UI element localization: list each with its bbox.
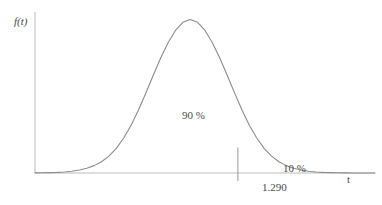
critical-value-label: 1.290	[262, 182, 287, 193]
distribution-figure: f(t) t 90 % 10 % 1.290	[0, 0, 382, 205]
x-axis-label: t	[347, 174, 350, 185]
y-axis-label: f(t)	[14, 16, 27, 27]
density-curve	[35, 19, 375, 173]
main-area-label: 90 %	[182, 110, 205, 121]
tail-area-label: 10 %	[283, 163, 306, 174]
plot-canvas	[0, 0, 382, 205]
